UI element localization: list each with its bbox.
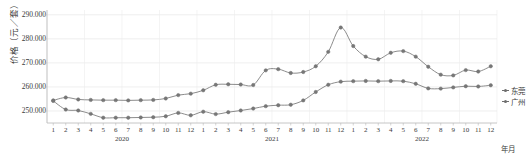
data-point [439,73,442,76]
data-point [102,116,105,119]
data-point [252,107,255,110]
data-point [102,98,105,101]
data-point [302,99,305,102]
data-point [452,86,455,89]
data-point [364,79,367,82]
data-point [114,98,117,101]
x-tick-2022-12: 12 [484,126,498,134]
data-point [402,79,405,82]
data-point [127,99,130,102]
data-point [427,65,430,68]
data-point [477,85,480,88]
data-point [314,65,317,68]
data-point [339,80,342,83]
data-point [402,49,405,52]
data-point [427,87,430,90]
data-point [139,98,142,101]
data-point [152,116,155,119]
data-point [389,79,392,82]
data-point [177,111,180,114]
legend-item-东莞[interactable]: 东莞 [502,85,525,96]
data-point [289,103,292,106]
data-point [77,98,80,101]
legend-marker-icon [502,98,509,105]
legend-label: 东莞 [511,85,525,96]
data-point [252,83,255,86]
data-point [377,79,380,82]
data-point [377,58,380,61]
data-point [202,89,205,92]
data-point [239,109,242,112]
data-point [239,83,242,86]
data-point [214,83,217,86]
x-axis-title: 年月 [501,143,515,154]
x-year-2020: 2020 [102,135,142,143]
price-trend-chart: 价格（元／套） 250.000260.000270.000280.000290.… [0,0,530,163]
data-point [389,51,392,54]
data-point [414,82,417,85]
data-point [327,83,330,86]
data-point [464,85,467,88]
data-point [364,55,367,58]
data-point [227,83,230,86]
data-point [77,109,80,112]
data-point [264,104,267,107]
data-point [64,108,67,111]
data-point [339,26,342,29]
data-point [489,65,492,68]
data-point [439,87,442,90]
x-year-2021: 2021 [252,135,292,143]
data-point [214,112,217,115]
data-point [52,99,55,102]
data-point [227,110,230,113]
data-point [164,115,167,118]
data-point [414,55,417,58]
data-point [202,110,205,113]
legend-item-广州[interactable]: 广州 [502,96,525,107]
data-point [152,98,155,101]
data-point [64,96,67,99]
data-point [189,114,192,117]
data-point [114,116,117,119]
data-point [277,67,280,70]
legend-label: 广州 [511,96,525,107]
data-point [127,116,130,119]
data-point [352,79,355,82]
legend-marker-icon [502,87,509,94]
data-point [89,112,92,115]
data-point [277,104,280,107]
data-point [164,97,167,100]
data-point [177,93,180,96]
x-year-2022: 2022 [402,135,442,143]
data-point [489,84,492,87]
data-point [189,92,192,95]
data-point [352,44,355,47]
data-point [314,90,317,93]
data-point [452,74,455,77]
data-point [264,69,267,72]
data-point [302,70,305,73]
data-point [89,98,92,101]
data-point [477,70,480,73]
data-point [289,71,292,74]
data-point [139,116,142,119]
data-point [327,50,330,53]
data-point [464,68,467,71]
